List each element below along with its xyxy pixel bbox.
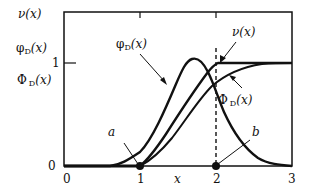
ylabel-Phi-d: ΦD(x) — [17, 73, 52, 88]
ytick-0-label: 0 — [48, 159, 56, 173]
arrowhead-Phi-d — [229, 75, 236, 81]
annotation-phi-d: φD(x) — [116, 37, 147, 52]
ylabel-nu: ν(x) — [18, 7, 42, 21]
xtick-1-label: 1 — [137, 172, 145, 186]
curve-phi-d — [64, 59, 292, 166]
xtick-2-label: 2 — [213, 172, 221, 186]
annotation-nu: ν(x) — [232, 25, 256, 39]
xtick-0-label: 0 — [63, 172, 71, 186]
xtick-3-label: 3 — [288, 172, 296, 186]
plot-frame — [64, 12, 292, 166]
annotation-b: b — [252, 125, 260, 139]
annotation-a: a — [108, 125, 115, 139]
xaxis-label: x — [174, 172, 181, 186]
chart: ν(x) φD(x) 1 ΦD(x) 0 0 1 x 2 3 a b φD(x)… — [0, 0, 310, 192]
ytick-1-label: 1 — [52, 56, 60, 70]
ylabel-phi-d: φD(x) — [16, 41, 47, 56]
annotation-Phi-d: ΦD(x) — [218, 93, 253, 108]
arrow-phi-d — [140, 54, 165, 82]
arrow-b — [218, 140, 250, 164]
